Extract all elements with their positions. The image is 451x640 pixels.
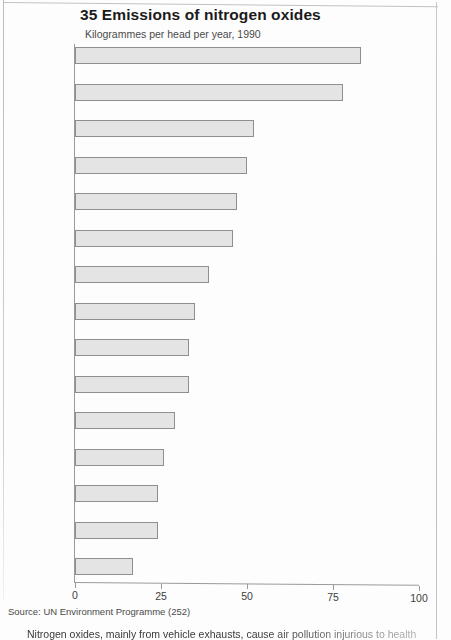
- x-axis-tick: [75, 583, 76, 588]
- bar: [75, 230, 233, 247]
- x-axis-tick: [247, 584, 248, 589]
- x-axis-tick-label: 25: [155, 590, 167, 602]
- bar: [75, 47, 361, 64]
- source-note: Source: UN Environment Programme (252): [8, 606, 190, 617]
- bar: [75, 449, 164, 466]
- bar: [75, 120, 254, 137]
- x-axis-tick: [161, 584, 162, 589]
- bar: [75, 485, 158, 502]
- bar: [75, 84, 343, 101]
- bar: [75, 376, 189, 393]
- bar: [75, 157, 247, 174]
- bar: [75, 339, 189, 356]
- x-axis-tick: [419, 586, 420, 591]
- body-caption: Nitrogen oxides, mainly from vehicle exh…: [27, 628, 447, 640]
- bar: [75, 266, 209, 283]
- x-axis-tick-label: 100: [410, 592, 428, 604]
- bar: [75, 558, 133, 575]
- x-axis-tick-label: 50: [241, 590, 253, 602]
- bar: [75, 303, 195, 320]
- x-axis-tick-label: 75: [327, 591, 339, 603]
- bar: [75, 193, 237, 210]
- bar: [75, 412, 175, 429]
- x-axis-tick: [333, 585, 334, 590]
- x-axis-tick-label: 0: [72, 589, 78, 601]
- bar: [75, 522, 158, 539]
